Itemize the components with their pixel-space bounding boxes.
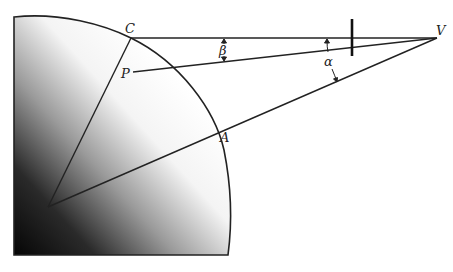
label-v: V — [436, 23, 447, 38]
sector-shape — [14, 16, 231, 255]
label-p: P — [120, 66, 130, 81]
label-alpha: α — [324, 54, 333, 69]
label-beta: β — [218, 43, 227, 58]
line-pv — [133, 38, 437, 72]
diagram: C P A V β α — [0, 0, 453, 272]
label-c: C — [125, 21, 135, 36]
label-a: A — [219, 130, 229, 145]
